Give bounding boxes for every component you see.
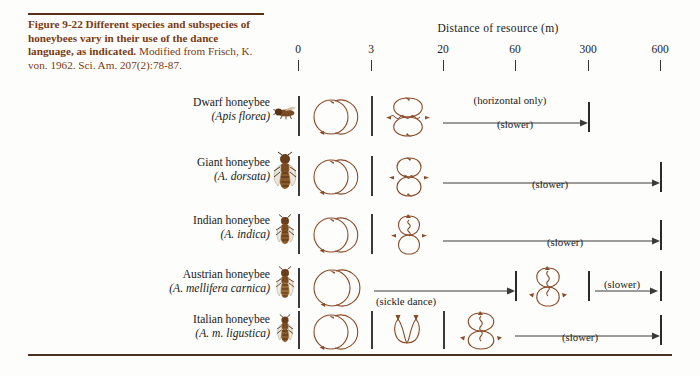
- tick-label-0: 0: [278, 43, 318, 55]
- tick-mark-3: [371, 60, 372, 71]
- species-name: (A. m. ligustica): [195, 327, 270, 340]
- note-slower-indian: (slower): [505, 236, 625, 248]
- common-name: Indian honeybee: [193, 214, 270, 227]
- note-slower-giant: (slower): [490, 178, 610, 190]
- waggle-dance-icon: [455, 309, 507, 357]
- end-bar-600: [660, 162, 662, 192]
- separator-bar-0: [298, 156, 300, 196]
- common-name: Giant honeybee: [197, 156, 270, 169]
- common-name: Austrian honeybee: [183, 268, 270, 281]
- row-indian-honeybee: Indian honeybee (A. indica): [0, 206, 700, 262]
- waggle-dance-icon: [386, 212, 432, 262]
- tick-mark-0: [298, 60, 299, 71]
- tick-mark-20: [443, 60, 444, 71]
- bee-illustration-giant: [272, 151, 298, 199]
- note-sickle-dance: (sickle dance): [346, 295, 466, 307]
- separator-bar-0: [298, 96, 300, 136]
- species-name: (A. indica): [220, 228, 270, 241]
- bee-illustration-indian: [274, 214, 296, 252]
- common-name: Italian honeybee: [193, 313, 270, 326]
- row-label-italian: Italian honeybee (A. m. ligustica): [80, 313, 270, 341]
- round-dance-icon: [310, 214, 360, 260]
- row-label-giant: Giant honeybee (A. dorsata): [90, 156, 270, 184]
- species-name: (A. mellifera carnica): [169, 282, 270, 295]
- separator-bar-0: [298, 214, 300, 254]
- waggle-dance-icon: [382, 94, 434, 144]
- species-name: (A. dorsata): [214, 170, 270, 183]
- separator-bar-3: [371, 311, 373, 349]
- separator-bar-3: [371, 96, 373, 136]
- waggle-dance-icon: [384, 154, 434, 204]
- row-giant-honeybee: Giant honeybee (A. dorsata): [0, 148, 700, 204]
- row-dwarf-honeybee: Dwarf honeybee (Apis florea): [0, 88, 700, 144]
- end-bar-60: [515, 271, 517, 301]
- tick-label-600: 600: [640, 43, 680, 55]
- caption-top-rule: [28, 13, 264, 15]
- axis-title: Distance of resource (m): [398, 22, 598, 34]
- tick-label-60: 60: [495, 43, 535, 55]
- separator-bar-20: [443, 311, 445, 349]
- separator-bar-0: [298, 311, 300, 349]
- note-horizontal-only: (horizontal only): [450, 94, 570, 106]
- bee-illustration-italian: [275, 314, 295, 350]
- figure-caption: Figure 9-22 Different species and subspe…: [28, 18, 260, 72]
- common-name: Dwarf honeybee: [193, 96, 270, 109]
- row-label-austrian: Austrian honeybee (A. mellifera carnica): [60, 268, 270, 296]
- row-label-indian: Indian honeybee (A. indica): [90, 214, 270, 242]
- note-slower-dwarf: (slower): [455, 118, 575, 130]
- tick-label-300: 300: [568, 43, 608, 55]
- figure-container: Figure 9-22 Different species and subspe…: [0, 0, 700, 376]
- figure-bottom-rule: [28, 354, 672, 356]
- tick-label-3: 3: [351, 43, 391, 55]
- species-name: (Apis florea): [212, 110, 271, 123]
- round-dance-icon: [310, 156, 360, 202]
- note-slower-italian: (slower): [520, 331, 640, 343]
- end-bar-600: [660, 220, 662, 250]
- row-italian-honeybee: Italian honeybee (A. m. ligustica): [0, 305, 700, 360]
- round-dance-icon: [310, 311, 360, 357]
- separator-bar-3: [371, 214, 373, 254]
- tick-mark-300: [588, 60, 589, 71]
- sickle-dance-icon: [380, 313, 436, 355]
- tick-mark-60: [515, 60, 516, 71]
- tick-label-20: 20: [423, 43, 463, 55]
- round-dance-icon: [310, 96, 360, 142]
- end-bar-600: [660, 315, 662, 345]
- bee-illustration-austrian: [274, 266, 296, 306]
- separator-bar-0: [298, 268, 300, 308]
- bee-illustration-dwarf: [273, 104, 299, 124]
- end-bar-300: [588, 102, 590, 132]
- note-slower-austrian: (slower): [562, 278, 682, 290]
- end-bar-600: [660, 271, 662, 301]
- row-label-dwarf: Dwarf honeybee (Apis florea): [90, 96, 270, 124]
- separator-bar-3: [371, 156, 373, 196]
- tick-mark-600: [660, 60, 661, 71]
